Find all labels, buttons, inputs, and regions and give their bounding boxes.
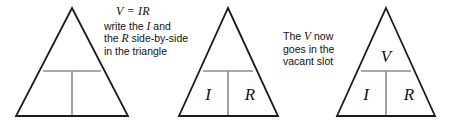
- annotation-first-variable-r: R: [122, 32, 129, 44]
- annotation-second-line-1-text-b: now: [311, 30, 333, 42]
- annotation-first-formula: V = IR: [116, 5, 188, 18]
- annotation-first-line-1-text-b: and: [150, 20, 170, 32]
- annotation-second-line-2: goes in the: [283, 43, 334, 56]
- triangle-with-i-and-r: I R: [179, 8, 278, 116]
- triangle-with-v-i-and-r: V I R: [337, 8, 435, 116]
- annotation-first-line-2-text-a: the: [104, 32, 122, 44]
- triangles-diagram: I R V I R: [0, 0, 450, 124]
- annotation-first-line-2-text-b: side-by-side: [129, 32, 189, 44]
- vir-triangle-label-i: I: [362, 85, 370, 104]
- annotation-first: V = IR write the I and the R side-by-sid…: [104, 5, 188, 57]
- annotation-second-line-1: The V now: [283, 30, 334, 43]
- figure-canvas: I R V I R V = IR write the I and the R s…: [0, 0, 450, 124]
- annotation-first-line-2: the R side-by-side: [104, 32, 188, 45]
- annotation-second-variable-v: V: [304, 30, 311, 42]
- annotation-first-line-3: in the triangle: [104, 45, 188, 58]
- annotation-second-line-3: vacant slot: [283, 55, 334, 68]
- annotation-second: The V now goes in the vacant slot: [283, 30, 334, 68]
- vir-triangle-label-v: V: [381, 47, 394, 66]
- ir-triangle-label-i: I: [204, 85, 212, 104]
- annotation-second-line-1-text-a: The: [283, 30, 304, 42]
- annotation-first-line-1: write the I and: [104, 20, 188, 33]
- annotation-first-line-1-text-a: write the: [104, 20, 147, 32]
- ir-triangle-label-r: R: [244, 85, 256, 104]
- vir-triangle-label-r: R: [403, 85, 415, 104]
